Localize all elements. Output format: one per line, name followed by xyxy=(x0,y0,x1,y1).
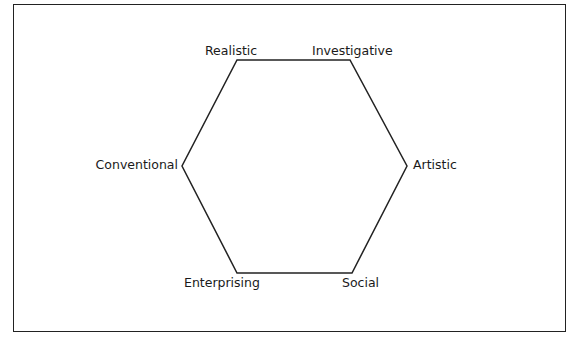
label-social: Social xyxy=(342,277,379,290)
label-enterprising: Enterprising xyxy=(184,277,260,290)
label-conventional: Conventional xyxy=(96,159,178,172)
label-artistic: Artistic xyxy=(413,159,457,172)
hexagon-diagram xyxy=(0,0,576,340)
hexagon-shape xyxy=(182,60,407,273)
label-investigative: Investigative xyxy=(312,45,393,58)
label-realistic: Realistic xyxy=(205,45,257,58)
